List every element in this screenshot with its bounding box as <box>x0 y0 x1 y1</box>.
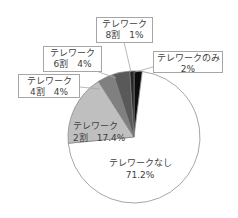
data-label-only-line1: テレワークのみ <box>156 53 220 64</box>
data-label-none-line2: 71.2% <box>105 169 175 181</box>
data-label-r4-line2: 4割 4% <box>21 87 77 98</box>
data-label-r2: テレワーク 2割 17.4% <box>73 120 125 144</box>
data-label-r2-line2: 2割 17.4% <box>73 132 125 144</box>
data-label-r6-line1: テレワーク <box>46 48 99 59</box>
leader-line-only <box>135 67 153 72</box>
data-label-r8-line2: 8割 1% <box>99 30 150 41</box>
data-label-none-line1: テレワークなし <box>105 157 175 169</box>
data-label-only: テレワークのみ 2% <box>153 51 223 73</box>
data-label-only-line2: 2% <box>156 64 220 75</box>
data-label-r6: テレワーク 6割 4% <box>43 46 102 72</box>
data-label-r6-line2: 6割 4% <box>46 59 99 70</box>
data-label-r4: テレワーク 4割 4% <box>18 74 80 98</box>
leader-line-r8 <box>124 42 131 72</box>
data-label-r2-line1: テレワーク <box>73 120 125 132</box>
data-label-r4-line1: テレワーク <box>21 76 77 87</box>
data-label-r8-line1: テレワーク <box>99 19 150 30</box>
data-label-none: テレワークなし 71.2% <box>105 157 175 181</box>
data-label-r8: テレワーク 8割 1% <box>96 17 153 43</box>
